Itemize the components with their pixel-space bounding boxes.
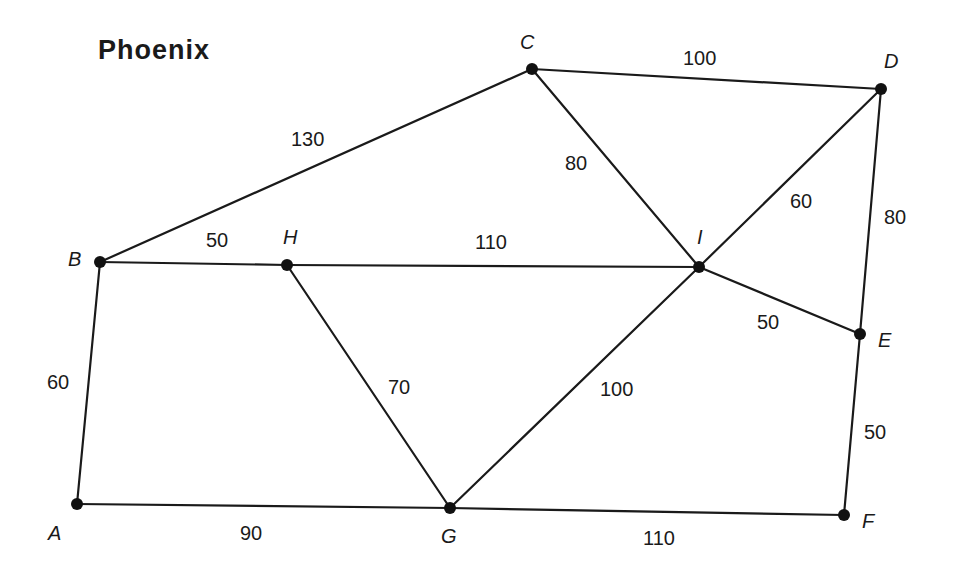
weighted-graph-diagram: Phoenix 13010080608050110506070100509011… — [0, 0, 954, 577]
edge-weight-g-f: 110 — [643, 527, 675, 549]
edge-h-g — [287, 265, 450, 508]
edge-b-a — [77, 262, 100, 504]
node-label-f: F — [862, 510, 876, 532]
nodes-group — [71, 63, 887, 521]
node-g — [444, 502, 456, 514]
node-b — [94, 256, 106, 268]
edge-c-d — [532, 69, 881, 89]
edge-d-e — [860, 89, 881, 334]
edge-a-g — [77, 504, 450, 508]
node-a — [71, 498, 83, 510]
edge-i-g — [450, 267, 699, 508]
edge-i-e — [699, 267, 860, 334]
node-f — [838, 509, 850, 521]
edge-weight-b-a: 60 — [47, 371, 69, 393]
node-label-b: B — [68, 248, 81, 270]
edge-weight-b-h: 50 — [206, 229, 228, 251]
edge-weight-h-g: 70 — [388, 376, 410, 398]
edge-weight-i-e: 50 — [757, 311, 779, 333]
diagram-title: Phoenix — [98, 35, 210, 65]
node-e — [854, 328, 866, 340]
node-label-i: I — [697, 226, 703, 248]
edge-d-i — [699, 89, 881, 267]
edge-h-i — [287, 265, 699, 267]
edge-weight-c-d: 100 — [683, 47, 716, 69]
node-d — [875, 83, 887, 95]
node-label-a: A — [47, 522, 61, 544]
edges-group — [77, 69, 881, 515]
node-h — [281, 259, 293, 271]
node-labels-group: ABCDEFGHI — [47, 31, 898, 547]
edge-weight-e-f: 50 — [864, 421, 886, 443]
edge-weight-a-g: 90 — [240, 522, 262, 544]
node-label-c: C — [520, 31, 535, 53]
edge-weight-b-c: 130 — [291, 128, 324, 150]
edge-e-f — [844, 334, 860, 515]
edge-weight-c-i: 80 — [565, 152, 587, 174]
node-label-h: H — [283, 226, 298, 248]
edge-g-f — [450, 508, 844, 515]
edge-b-c — [100, 69, 532, 262]
node-i — [693, 261, 705, 273]
edge-c-i — [532, 69, 699, 267]
edge-b-h — [100, 262, 287, 265]
edge-weight-i-g: 100 — [600, 378, 633, 400]
node-label-d: D — [884, 50, 898, 72]
node-label-e: E — [878, 329, 892, 351]
edge-weights-group: 130100806080501105060701005090110 — [47, 47, 906, 549]
node-label-g: G — [441, 525, 457, 547]
node-c — [526, 63, 538, 75]
edge-weight-d-e: 80 — [884, 206, 906, 228]
edge-weight-d-i: 60 — [790, 190, 812, 212]
edge-weight-h-i: 110 — [475, 231, 507, 253]
